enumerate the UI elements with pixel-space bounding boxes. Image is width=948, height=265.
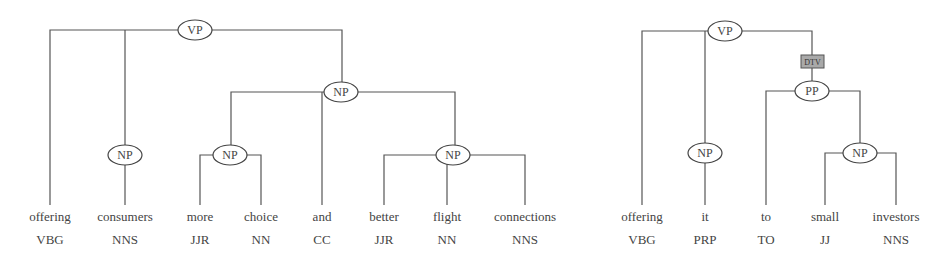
leaf-word: small: [811, 209, 839, 225]
leaf-word: and: [313, 209, 332, 225]
leaf-word: it: [701, 209, 708, 225]
tree1-node-np-consumers: NP: [108, 145, 142, 165]
leaf-pos-tag: CC: [313, 232, 330, 248]
svg-text:NP: NP: [222, 148, 238, 162]
leaf-pos-tag: NN: [252, 232, 271, 248]
tree1-node-np-more-choice: NP: [213, 145, 247, 165]
leaf-pos-tag: JJ: [820, 232, 830, 248]
leaf-word: to: [761, 209, 771, 225]
svg-text:NP: NP: [697, 146, 713, 160]
tree1-node-vp: VP: [178, 20, 212, 40]
leaf-pos-tag: NN: [438, 232, 457, 248]
leaf-word: flight: [433, 209, 461, 225]
leaf-word: consumers: [97, 209, 153, 225]
tree2-node-np-it: NP: [688, 143, 722, 163]
leaf-word: more: [187, 209, 214, 225]
leaf-pos-tag: NNS: [883, 232, 909, 248]
svg-text:NP: NP: [852, 146, 868, 160]
tree1-node-np-object: NP: [324, 82, 358, 102]
leaf-pos-tag: TO: [757, 232, 774, 248]
svg-text:VP: VP: [717, 24, 733, 38]
svg-text:DTV: DTV: [804, 58, 821, 67]
parse-tree-canvas: VP NP NP NP NP VP DTV PP NP NP: [0, 0, 948, 265]
leaf-word: offering: [621, 209, 663, 225]
svg-text:PP: PP: [805, 84, 819, 98]
svg-text:NP: NP: [333, 85, 349, 99]
tree1-edges: [50, 30, 525, 205]
svg-text:NP: NP: [117, 148, 133, 162]
tree2-node-pp: PP: [795, 81, 829, 101]
leaf-word: offering: [29, 209, 71, 225]
tree1-node-np-better-flight: NP: [436, 145, 470, 165]
tree2-node-vp: VP: [708, 21, 742, 41]
leaf-pos-tag: JJR: [191, 232, 210, 248]
leaf-word: investors: [873, 209, 920, 225]
tree2-edges: [642, 31, 896, 205]
leaf-pos-tag: VBG: [628, 232, 655, 248]
tree2-dtv-label-box: DTV: [801, 55, 824, 68]
leaf-word: choice: [244, 209, 278, 225]
leaf-pos-tag: VBG: [36, 232, 63, 248]
svg-text:VP: VP: [187, 23, 203, 37]
leaf-word: connections: [494, 209, 556, 225]
leaf-pos-tag: PRP: [693, 232, 716, 248]
leaf-word: better: [369, 209, 399, 225]
leaf-pos-tag: JJR: [375, 232, 394, 248]
leaf-pos-tag: NNS: [112, 232, 138, 248]
svg-text:NP: NP: [445, 148, 461, 162]
tree2-node-np-small-investors: NP: [843, 143, 877, 163]
leaf-pos-tag: NNS: [512, 232, 538, 248]
